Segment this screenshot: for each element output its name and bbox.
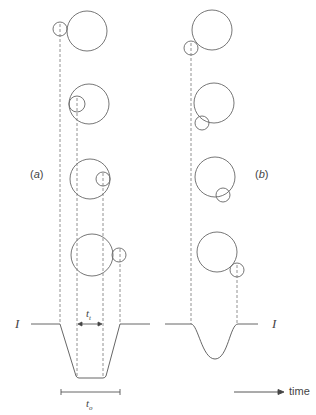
panel-a-aperture-1 [67, 11, 107, 51]
signal-label-right: I [272, 316, 276, 332]
panel-b-aperture-1 [192, 10, 232, 50]
panel-a-aperture-3 [70, 159, 110, 199]
panel-b-particle-2 [195, 116, 209, 130]
time-axis-label: time [289, 385, 310, 397]
particle-transit-diagram [0, 0, 316, 415]
total-time-label: to [86, 397, 93, 412]
transit-time-label: tt [86, 307, 91, 322]
panel-a-particle-4 [112, 248, 126, 262]
signal-label-left: I [15, 316, 19, 332]
panel-b-label: (b) [255, 168, 268, 180]
panel-a-aperture-2 [69, 84, 109, 124]
panel-b-signal-trace [165, 324, 258, 359]
panel-a-label: (a) [30, 168, 43, 180]
panel-a-signal-trace [31, 324, 150, 378]
panel-b-aperture-2 [194, 83, 234, 123]
